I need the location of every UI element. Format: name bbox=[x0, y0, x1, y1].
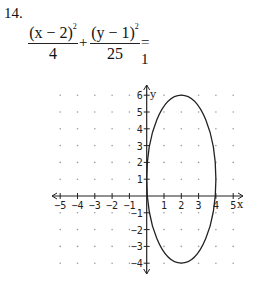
x-tick-label: 5 bbox=[230, 200, 236, 211]
grid-dot bbox=[111, 178, 113, 180]
grid-dot bbox=[198, 212, 200, 214]
grid-dot bbox=[94, 229, 96, 231]
grid-dot bbox=[59, 128, 61, 130]
grid-dot bbox=[59, 212, 61, 214]
grid-dot bbox=[77, 246, 79, 248]
grid-dot bbox=[198, 145, 200, 147]
grid-dot bbox=[94, 145, 96, 147]
grid-dot bbox=[215, 145, 217, 147]
ellipse-graph: −5−4−3−2−112345654321−1−2−3−4 x y bbox=[0, 0, 260, 293]
grid-dot bbox=[215, 94, 217, 96]
grid-dot bbox=[129, 128, 131, 130]
y-tick-label: 1 bbox=[137, 174, 143, 185]
grid-dot bbox=[163, 178, 165, 180]
grid-dot bbox=[129, 178, 131, 180]
grid-dot bbox=[163, 229, 165, 231]
tick-labels: −5−4−3−2−112345654321−1−2−3−4 bbox=[54, 90, 236, 269]
x-tick-label: 2 bbox=[178, 200, 184, 211]
grid-dot bbox=[181, 145, 183, 147]
y-tick-label: 5 bbox=[137, 107, 143, 118]
grid-dot bbox=[94, 162, 96, 164]
grid-dot bbox=[111, 229, 113, 231]
grid-dot bbox=[77, 162, 79, 164]
grid-dot bbox=[129, 162, 131, 164]
grid-dot bbox=[77, 94, 79, 96]
grid-dot bbox=[181, 212, 183, 214]
grid-dot bbox=[215, 111, 217, 113]
grid-dot bbox=[232, 162, 234, 164]
grid-dot bbox=[215, 229, 217, 231]
y-tick-label: 2 bbox=[137, 157, 143, 168]
y-axis-label: y bbox=[149, 88, 157, 101]
x-tick-label: −3 bbox=[89, 200, 101, 211]
grid-dot bbox=[59, 111, 61, 113]
grid-dot bbox=[77, 212, 79, 214]
grid-dot bbox=[59, 178, 61, 180]
grid-dot bbox=[163, 246, 165, 248]
grid-dot bbox=[77, 111, 79, 113]
grid-dot bbox=[163, 145, 165, 147]
grid-dot bbox=[163, 128, 165, 130]
grid-dot bbox=[232, 94, 234, 96]
grid-dot bbox=[232, 178, 234, 180]
grid-dot bbox=[94, 212, 96, 214]
grid-dot bbox=[198, 111, 200, 113]
grid-dot bbox=[181, 111, 183, 113]
y-tick-label: −1 bbox=[131, 208, 143, 219]
grid-dot bbox=[94, 111, 96, 113]
x-tick-label: −4 bbox=[71, 200, 83, 211]
grid-dot bbox=[111, 212, 113, 214]
grid-dot bbox=[215, 128, 217, 130]
grid-dot bbox=[232, 229, 234, 231]
grid-dot bbox=[163, 162, 165, 164]
grid-dot bbox=[94, 262, 96, 264]
grid-dot bbox=[198, 128, 200, 130]
grid-dot bbox=[215, 262, 217, 264]
grid-dot bbox=[59, 262, 61, 264]
grid-dot bbox=[181, 162, 183, 164]
y-tick-label: −3 bbox=[131, 241, 143, 252]
grid-dot bbox=[181, 128, 183, 130]
grid-dot bbox=[77, 262, 79, 264]
grid-dot bbox=[77, 229, 79, 231]
x-tick-label: 1 bbox=[161, 200, 167, 211]
grid-dot bbox=[232, 246, 234, 248]
grid-dot bbox=[232, 212, 234, 214]
grid-dot bbox=[94, 246, 96, 248]
grid-dot bbox=[59, 162, 61, 164]
grid-dot bbox=[111, 262, 113, 264]
grid-dot bbox=[198, 229, 200, 231]
grid-dot bbox=[163, 262, 165, 264]
grid-dot bbox=[111, 246, 113, 248]
grid-dot bbox=[129, 145, 131, 147]
y-tick-label: 3 bbox=[137, 141, 143, 152]
grid-dot bbox=[129, 94, 131, 96]
grid-dot bbox=[59, 145, 61, 147]
grid-dot bbox=[181, 246, 183, 248]
grid-dot bbox=[163, 111, 165, 113]
x-tick-label: −5 bbox=[54, 200, 66, 211]
grid-dot bbox=[111, 145, 113, 147]
grid-dot bbox=[181, 229, 183, 231]
grid-dot bbox=[232, 128, 234, 130]
grid-dot bbox=[77, 178, 79, 180]
grid-dot bbox=[215, 212, 217, 214]
grid-dot bbox=[198, 262, 200, 264]
grid-dot bbox=[94, 128, 96, 130]
x-tick-label: −2 bbox=[106, 200, 118, 211]
grid-dot bbox=[77, 145, 79, 147]
y-tick-label: −2 bbox=[131, 225, 143, 236]
y-tick-label: 6 bbox=[137, 90, 143, 101]
y-tick-label: −4 bbox=[131, 258, 143, 269]
grid-dot bbox=[59, 94, 61, 96]
grid-dot bbox=[198, 162, 200, 164]
grid-dot bbox=[111, 111, 113, 113]
grid-dot bbox=[59, 246, 61, 248]
grid-dot bbox=[163, 212, 165, 214]
grid-dot bbox=[111, 94, 113, 96]
grid-dot bbox=[198, 246, 200, 248]
grid-dot bbox=[111, 128, 113, 130]
grid-dot bbox=[181, 178, 183, 180]
grid-dot bbox=[129, 111, 131, 113]
grid-dot bbox=[111, 162, 113, 164]
